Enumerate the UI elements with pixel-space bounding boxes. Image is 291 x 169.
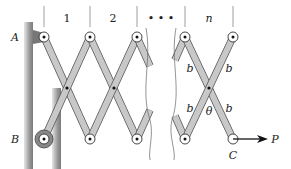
length-label-b-upper-right: b [225, 62, 232, 75]
force-label-P: P [270, 133, 279, 146]
point-label-A: A [10, 31, 19, 44]
bay-label-2: 2 [110, 12, 117, 25]
angle-label-theta: θ [206, 105, 213, 118]
force-arrow [233, 135, 268, 143]
length-label-b-lower-left: b [186, 102, 193, 115]
length-label-b-upper-left: b [186, 62, 193, 75]
links [44, 37, 233, 139]
point-label-C: C [229, 149, 238, 162]
bay-label-1: 1 [64, 12, 71, 25]
length-label-b-lower-right: b [225, 102, 232, 115]
point-label-B: B [10, 133, 19, 146]
bay-label-ellipsis: • • • [148, 12, 174, 25]
bay-label-n: n [205, 12, 212, 25]
lazy-tongs-diagram: 1 2 • • • n A B C P b b b b θ [0, 0, 291, 169]
break-lines [146, 28, 176, 160]
